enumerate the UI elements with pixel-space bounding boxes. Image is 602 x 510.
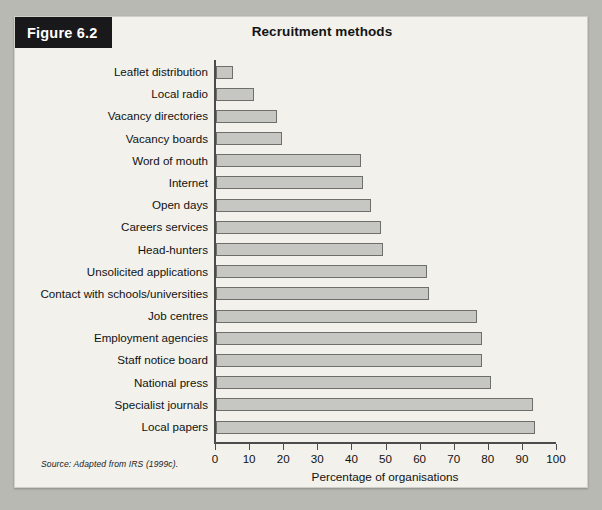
x-axis-tick-mark [215,444,216,450]
bar-category-label: Local radio [151,87,208,100]
x-axis-tick-label: 80 [481,452,494,465]
figure-card: Figure 6.2 Recruitment methods Leaflet d… [14,16,588,488]
bar-category-label: Vacancy boards [126,132,208,145]
bar [216,132,282,145]
bar [216,310,477,323]
bar [216,66,233,79]
bar [216,332,482,345]
x-axis-tick-mark [386,444,387,450]
bar [216,354,482,367]
bar-row: Job centres [15,306,589,328]
bar-category-label: Employment agencies [94,331,208,344]
bar-category-label: Job centres [148,309,208,322]
bar-category-label: Open days [152,198,208,211]
x-axis-tick-label: 30 [311,452,324,465]
bar [216,376,491,389]
bar-category-label: Head-hunters [138,243,208,256]
bar-category-label: Contact with schools/universities [40,287,208,300]
x-axis-tick-mark [283,444,284,450]
bar-row: Internet [15,173,589,195]
bar-row: National press [15,373,589,395]
x-axis-tick-label: 40 [345,452,358,465]
x-axis-tick-label: 60 [413,452,426,465]
x-axis-tick-label: 50 [379,452,392,465]
bar [216,110,277,123]
bar-category-label: Careers services [121,220,208,233]
bar [216,88,254,101]
x-axis-tick-mark [420,444,421,450]
x-axis-tick-mark [351,444,352,450]
bar-category-label: Leaflet distribution [114,65,208,78]
bar-row: Head-hunters [15,240,589,262]
bar-row: Employment agencies [15,328,589,350]
bar [216,199,371,212]
x-axis-title: Percentage of organisations [214,470,556,484]
bar-row: Unsolicited applications [15,262,589,284]
bar-row: Contact with schools/universities [15,284,589,306]
figure-number-badge: Figure 6.2 [15,17,112,48]
x-axis-tick-mark [522,444,523,450]
bar [216,221,381,234]
bar-row: Local radio [15,84,589,106]
bar-row: Vacancy directories [15,106,589,128]
bar-category-label: Staff notice board [117,353,208,366]
bar [216,243,383,256]
bar [216,421,535,434]
bar-row: Careers services [15,217,589,239]
bar-category-label: Vacancy directories [108,109,208,122]
bar [216,265,427,278]
bar-series: Leaflet distributionLocal radioVacancy d… [15,62,589,439]
bar-row: Local papers [15,417,589,439]
bar-category-label: Specialist journals [115,398,208,411]
bar [216,287,429,300]
x-axis-tick-mark [488,444,489,450]
x-axis-tick-mark [317,444,318,450]
x-axis-tick-label: 20 [277,452,290,465]
x-axis-tick-mark [454,444,455,450]
x-axis-tick-label: 90 [515,452,528,465]
chart-title: Recruitment methods [112,24,532,39]
bar-row: Leaflet distribution [15,62,589,84]
x-axis-tick-label: 70 [447,452,460,465]
bar-category-label: Internet [169,176,208,189]
bar-row: Specialist journals [15,395,589,417]
bar-category-label: Word of mouth [132,154,208,167]
bar [216,398,533,411]
bar [216,176,363,189]
figure-number-label: Figure 6.2 [27,25,98,41]
bar-category-label: Local papers [142,420,208,433]
bar-row: Staff notice board [15,350,589,372]
source-note: Source: Adapted from IRS (1999c). [41,459,178,469]
x-axis-tick-label: 100 [546,452,565,465]
x-axis-tick-label: 0 [212,452,218,465]
bar [216,154,361,167]
x-axis-tick-mark [249,444,250,450]
bar-category-label: National press [134,376,208,389]
x-axis-tick-mark [556,444,557,450]
bar-row: Word of mouth [15,151,589,173]
bar-category-label: Unsolicited applications [87,265,208,278]
bar-chart-plot-area: Leaflet distributionLocal radioVacancy d… [15,55,589,450]
x-axis-tick-label: 10 [243,452,256,465]
bar-row: Vacancy boards [15,129,589,151]
bar-row: Open days [15,195,589,217]
